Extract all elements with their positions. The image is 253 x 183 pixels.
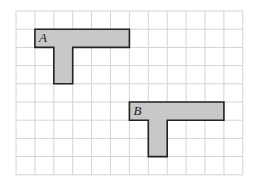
shape-a [35, 29, 129, 84]
grid-diagram: A B [0, 0, 253, 183]
shape-b-label: B [133, 103, 141, 118]
shape-b [129, 102, 224, 157]
shape-a-label: A [38, 30, 47, 45]
